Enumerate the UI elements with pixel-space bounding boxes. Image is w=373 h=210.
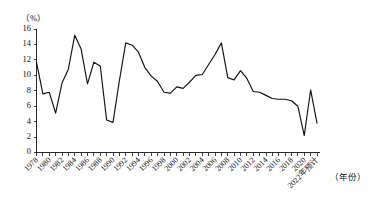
y-tick-label-6: 6 (27, 100, 31, 110)
x-axis-caption-label: （年份） (330, 172, 366, 182)
y-tick-label-2: 2 (27, 131, 31, 141)
y-tick-label-16: 16 (23, 23, 32, 33)
x-axis-tick-labels: 1978198019821984198619881990199219941996… (22, 155, 320, 190)
gdp-growth-series-line (37, 35, 318, 135)
y-tick-label-0: 0 (27, 146, 31, 156)
y-tick-label-12: 12 (23, 54, 32, 64)
chart-canvas: （%） 0246810121416 1978198019821984198619… (0, 0, 373, 210)
y-axis-unit-label: （%） (21, 13, 46, 23)
y-tick-label-4: 4 (27, 116, 32, 126)
gdp-growth-line-chart: （%） 0246810121416 1978198019821984198619… (0, 0, 373, 210)
y-axis-tick-labels: 0246810121416 (23, 23, 32, 157)
y-tick-label-14: 14 (23, 38, 32, 48)
y-tick-label-10: 10 (23, 69, 32, 79)
y-tick-label-8: 8 (27, 85, 31, 95)
